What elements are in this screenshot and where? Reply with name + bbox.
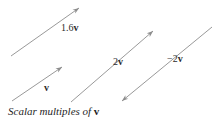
vector-label-minus-2v: −2v — [167, 54, 183, 64]
figure-caption-symbol: v — [94, 105, 100, 117]
vector-label-v-symbol: v — [44, 82, 49, 93]
vector-label-1-6v-symbol: v — [74, 22, 79, 33]
vector-label-1-6v-scalar: 1.6 — [61, 22, 74, 33]
vector-label-minus-2v-scalar: −2 — [167, 53, 178, 64]
vector-label-1-6v: 1.6v — [61, 23, 79, 33]
vector-label-2v: 2v — [113, 57, 123, 67]
vector-label-2v-symbol: v — [118, 56, 123, 67]
arrow-2v — [71, 31, 153, 102]
figure-caption: Scalar multiples of v — [8, 106, 99, 117]
vector-label-minus-2v-symbol: v — [178, 53, 183, 64]
arrow-v — [12, 67, 62, 101]
vector-label-v: v — [44, 83, 49, 93]
figure-caption-text: Scalar multiples of — [8, 105, 94, 117]
arrow-minus-2v — [122, 27, 212, 101]
scalar-multiples-figure: 1.6v v 2v −2v Scalar multiples of v — [0, 0, 217, 124]
